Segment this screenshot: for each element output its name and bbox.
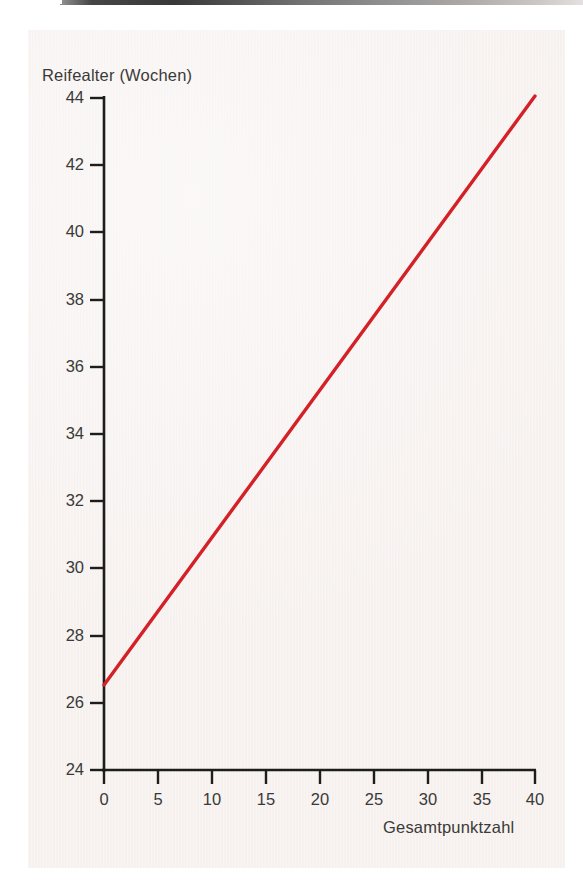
y-tick-label: 34 (50, 424, 84, 443)
x-tick-label: 15 (251, 790, 281, 809)
y-axis-title: Reifealter (Wochen) (42, 66, 192, 85)
x-tick-label: 30 (413, 790, 443, 809)
x-tick-label: 35 (467, 790, 497, 809)
chart-svg (0, 0, 583, 887)
y-tick-marks (90, 98, 104, 770)
y-tick-label: 40 (50, 222, 84, 241)
x-tick-label: 10 (197, 790, 227, 809)
y-tick-label: 44 (50, 88, 84, 107)
y-tick-label: 42 (50, 155, 84, 174)
x-axis-title: Gesamtpunktzahl (383, 818, 514, 837)
x-tick-marks (104, 770, 535, 784)
y-tick-label: 24 (50, 760, 84, 779)
chart-plot-area: Reifealter (Wochen) Gesamtpunktzahl 44 4… (0, 0, 583, 887)
regression-line (104, 96, 535, 685)
y-tick-label: 28 (50, 626, 84, 645)
x-tick-label: 0 (89, 790, 119, 809)
y-tick-label: 36 (50, 357, 84, 376)
y-tick-label: 32 (50, 491, 84, 510)
x-tick-label: 20 (305, 790, 335, 809)
y-tick-label: 38 (50, 290, 84, 309)
y-tick-label: 26 (50, 693, 84, 712)
x-tick-label: 5 (143, 790, 173, 809)
x-tick-label: 40 (520, 790, 550, 809)
x-tick-label: 25 (359, 790, 389, 809)
y-tick-label: 30 (50, 558, 84, 577)
